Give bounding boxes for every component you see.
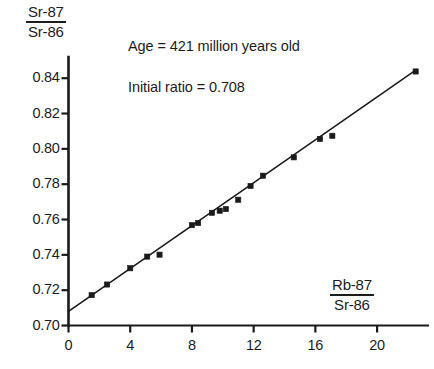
y-axis-tick-label: 0.80 xyxy=(14,140,60,156)
data-point xyxy=(317,136,322,141)
isochron-chart-figure: Sr-87 Sr-86 Rb-87 Sr-86 Age = 421 millio… xyxy=(0,0,434,369)
data-point xyxy=(89,293,94,298)
data-point xyxy=(128,266,133,271)
x-axis-tick-label: 0 xyxy=(56,337,82,353)
data-point xyxy=(291,155,296,160)
x-axis-tick-label: 12 xyxy=(241,337,267,353)
data-point xyxy=(196,220,201,225)
y-axis-tick-label: 0.74 xyxy=(14,246,60,262)
y-axis-tick-label: 0.82 xyxy=(14,105,60,121)
data-point xyxy=(236,197,241,202)
data-point xyxy=(189,223,194,228)
data-point xyxy=(145,254,150,259)
y-axis-tick-label: 0.72 xyxy=(14,281,60,297)
data-point xyxy=(104,282,109,287)
x-axis-tick-label: 8 xyxy=(179,337,205,353)
y-axis-tick-label: 0.70 xyxy=(14,317,60,333)
y-axis-tick-label: 0.84 xyxy=(14,69,60,85)
data-point xyxy=(248,183,253,188)
y-axis-tick-label: 0.78 xyxy=(14,175,60,191)
data-point xyxy=(157,252,162,257)
x-axis-tick-label: 4 xyxy=(117,337,143,353)
data-point xyxy=(330,133,335,138)
data-point xyxy=(223,206,228,211)
plot-area xyxy=(0,0,434,369)
x-axis-tick-label: 20 xyxy=(364,337,390,353)
regression-line xyxy=(69,69,418,311)
y-axis-tick-label: 0.76 xyxy=(14,211,60,227)
data-point xyxy=(413,69,418,74)
data-point xyxy=(260,173,265,178)
axes xyxy=(69,57,429,326)
data-point xyxy=(217,208,222,213)
data-point xyxy=(209,210,214,215)
x-axis-tick-label: 16 xyxy=(302,337,328,353)
isochron-fit-line xyxy=(69,69,418,311)
